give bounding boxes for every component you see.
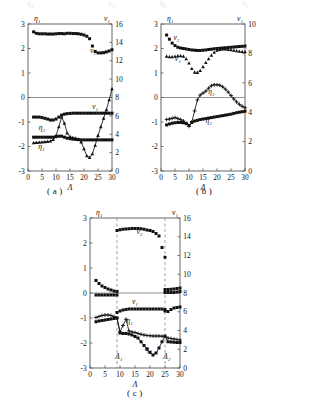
y-tick-label-right: 0 bbox=[183, 364, 187, 373]
data-point bbox=[131, 334, 134, 337]
data-point bbox=[182, 47, 185, 50]
x-tick-label: 10 bbox=[116, 370, 124, 379]
data-point bbox=[230, 113, 233, 116]
data-point bbox=[128, 333, 131, 336]
data-point bbox=[104, 294, 107, 297]
data-point bbox=[41, 136, 44, 139]
y-tick-label-right: 16 bbox=[183, 214, 191, 223]
data-point bbox=[71, 32, 74, 35]
data-point bbox=[170, 291, 173, 294]
data-point bbox=[131, 227, 134, 230]
x-tick-label: 25 bbox=[94, 173, 102, 182]
data-point bbox=[46, 136, 49, 139]
data-point bbox=[169, 337, 173, 341]
data-point bbox=[171, 122, 174, 125]
data-point bbox=[108, 112, 111, 115]
data-point bbox=[113, 290, 116, 293]
data-point bbox=[101, 285, 104, 288]
data-point bbox=[167, 288, 170, 291]
data-point bbox=[66, 137, 69, 140]
y-tick-label-left: -2 bbox=[151, 142, 158, 151]
data-point bbox=[122, 332, 125, 335]
x-tick-label: 10 bbox=[185, 173, 193, 182]
data-point bbox=[107, 98, 111, 101]
data-point bbox=[96, 134, 100, 137]
data-point bbox=[110, 318, 113, 321]
data-point bbox=[210, 48, 213, 51]
data-point bbox=[174, 44, 177, 47]
y-tick-label-right: 14 bbox=[115, 38, 123, 47]
data-point bbox=[165, 54, 169, 57]
annotation-Λ₁: Λ₁ bbox=[114, 352, 123, 361]
data-point bbox=[106, 313, 110, 317]
data-point bbox=[74, 32, 77, 35]
data-point bbox=[38, 116, 41, 119]
data-point bbox=[93, 143, 97, 146]
y-tick-label-left: -2 bbox=[80, 339, 87, 348]
y-tick-label-left: 2 bbox=[154, 44, 158, 53]
data-point bbox=[128, 308, 131, 311]
data-point bbox=[139, 332, 143, 336]
data-point bbox=[213, 47, 216, 50]
data-point bbox=[41, 32, 44, 35]
annotation-v₁: v₁ bbox=[237, 14, 243, 23]
data-point bbox=[137, 308, 140, 311]
data-point bbox=[238, 111, 241, 114]
data-point bbox=[82, 147, 86, 150]
x-tick-label: 10 bbox=[52, 173, 60, 182]
data-point bbox=[91, 112, 94, 115]
panel-b: 051015202530-3-2-101230246810η₁v₁v₂v₁η₁η… bbox=[133, 6, 270, 196]
series-eta2 bbox=[32, 135, 113, 142]
data-point bbox=[85, 35, 88, 38]
data-point bbox=[232, 46, 235, 49]
data-point bbox=[95, 320, 98, 323]
data-point bbox=[190, 121, 193, 124]
data-point bbox=[110, 294, 113, 297]
annotation-v₁: v₁ bbox=[104, 14, 110, 23]
data-point bbox=[215, 83, 219, 87]
annotation-v₁: v₁ bbox=[175, 54, 181, 63]
data-point bbox=[167, 310, 170, 313]
data-point bbox=[196, 98, 200, 102]
data-point bbox=[46, 118, 49, 121]
data-point bbox=[179, 47, 182, 50]
data-point bbox=[65, 131, 69, 134]
data-point bbox=[155, 352, 158, 355]
panel-c: 051015202530-3-2-101230246810121416η₁v₁v… bbox=[62, 200, 212, 395]
data-point bbox=[128, 227, 131, 230]
y-tick-label-right: 6 bbox=[183, 307, 187, 316]
data-point bbox=[80, 33, 83, 36]
data-point bbox=[60, 135, 63, 138]
x-tick-label: 15 bbox=[131, 370, 139, 379]
caption-b: ( b ) bbox=[196, 186, 212, 196]
data-point bbox=[43, 32, 46, 35]
x-tick-label: 5 bbox=[40, 173, 44, 182]
data-point bbox=[146, 308, 149, 311]
data-point bbox=[107, 294, 110, 297]
y-tick-label-right: 8 bbox=[248, 49, 252, 58]
annotation-η₁: η₁ bbox=[167, 14, 174, 23]
data-point bbox=[158, 347, 161, 350]
plot-b: 051015202530-3-2-101230246810η₁v₁v₂v₁η₁η… bbox=[133, 6, 270, 196]
data-point bbox=[102, 51, 105, 54]
data-point bbox=[41, 116, 44, 119]
data-point bbox=[104, 319, 107, 322]
data-point bbox=[167, 291, 170, 294]
data-point bbox=[167, 340, 170, 343]
y-tick-label-left: 0 bbox=[83, 289, 87, 298]
data-point bbox=[244, 110, 247, 113]
data-point bbox=[116, 290, 119, 293]
x-tick-label: 5 bbox=[173, 173, 177, 182]
data-point bbox=[179, 121, 182, 124]
data-point bbox=[155, 308, 158, 311]
data-point bbox=[207, 48, 210, 51]
data-point bbox=[111, 138, 114, 141]
x-tick-label: 0 bbox=[88, 370, 92, 379]
y-tick-label-right: 2 bbox=[248, 137, 252, 146]
data-point bbox=[170, 288, 173, 291]
data-point bbox=[164, 335, 167, 338]
data-point bbox=[85, 154, 89, 157]
y-tick-label-right: 10 bbox=[115, 75, 123, 84]
data-point bbox=[158, 235, 161, 238]
data-point bbox=[98, 282, 101, 285]
